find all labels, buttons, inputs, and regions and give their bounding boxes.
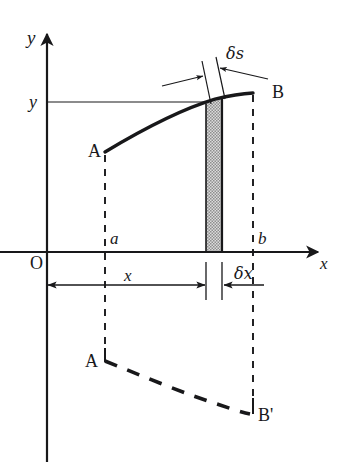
dimension-delta-s-label: δs [226,46,244,62]
prime-endpoint-ticks [105,348,253,414]
delta-s-leader-right [220,68,268,79]
strip-fill [206,99,222,252]
point-a-label: A [88,142,101,160]
curve-A-prime-B-prime [105,361,250,414]
tick-label-a: a [110,230,119,247]
x-axis-label: x [320,255,328,272]
y-axis-label: y [27,28,35,47]
dimension-x-label: x [124,267,132,284]
dimension-delta-x-label: δx [234,266,253,282]
tick-label-b: b [258,230,267,247]
point-a-prime-letter: A [85,351,98,371]
delta-s-tick-right [216,57,225,99]
elemental-strip [206,99,222,252]
point-a-prime-label: A [85,352,98,371]
ordinate-value-label: y [29,93,37,111]
figure-drawing-canvas [0,0,338,462]
delta-s-leader-left [162,76,203,86]
point-b-prime-label: B' [258,406,273,425]
figure-root: y x O y A B A B' a b x δx δs [0,0,338,462]
delta-s-tick-left [202,61,211,104]
axes-group [0,34,318,462]
origin-label: O [30,254,43,272]
point-b-label: B [272,83,284,101]
point-b-prime-mark: ' [270,405,273,425]
point-b-prime-letter: B [258,405,270,425]
